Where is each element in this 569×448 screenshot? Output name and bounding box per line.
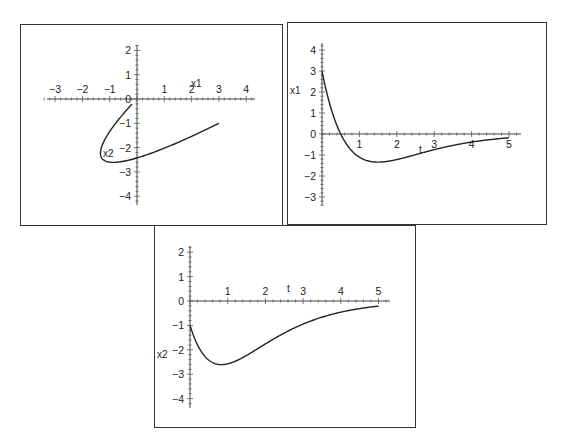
- svg-text:−1: −1: [172, 319, 184, 331]
- x1t-xlabel: t: [419, 144, 422, 155]
- x2t-xlabel: t: [287, 283, 290, 294]
- x1-curve: [322, 71, 509, 162]
- x2-curve: [190, 306, 379, 365]
- svg-text:2: 2: [310, 86, 316, 98]
- svg-text:−3: −3: [49, 83, 61, 95]
- svg-text:−3: −3: [304, 191, 316, 203]
- svg-text:−3: −3: [119, 166, 131, 178]
- svg-text:4: 4: [338, 285, 344, 297]
- svg-text:−3: −3: [172, 368, 184, 380]
- svg-text:1: 1: [356, 138, 362, 150]
- x2-time-plot: 12345210−1−2−3−4 t x2: [157, 246, 390, 408]
- plots-canvas: −3−2−11234210−1−2−3−4 x1 x2 1234543210−1…: [0, 0, 569, 448]
- svg-text:5: 5: [506, 138, 512, 150]
- svg-text:−2: −2: [119, 142, 131, 154]
- svg-text:0: 0: [178, 295, 184, 307]
- svg-text:3: 3: [216, 83, 222, 95]
- svg-text:1: 1: [125, 69, 131, 81]
- svg-text:1: 1: [161, 83, 167, 95]
- svg-text:−2: −2: [76, 83, 88, 95]
- svg-text:3: 3: [431, 138, 437, 150]
- svg-text:0: 0: [125, 93, 131, 105]
- svg-text:1: 1: [225, 285, 231, 297]
- x1t-ylabel: x1: [290, 85, 301, 96]
- svg-text:5: 5: [376, 285, 382, 297]
- svg-text:3: 3: [310, 65, 316, 77]
- x2t-ylabel: x2: [157, 349, 168, 360]
- svg-text:−1: −1: [304, 149, 316, 161]
- svg-text:4: 4: [469, 138, 475, 150]
- phase-plot: −3−2−11234210−1−2−3−4 x1 x2: [44, 44, 255, 205]
- svg-text:1: 1: [178, 271, 184, 283]
- svg-text:−4: −4: [172, 393, 184, 405]
- svg-text:−1: −1: [119, 117, 131, 129]
- svg-text:1: 1: [310, 107, 316, 119]
- svg-text:−2: −2: [304, 170, 316, 182]
- svg-text:−4: −4: [119, 190, 131, 202]
- svg-text:2: 2: [262, 285, 268, 297]
- svg-text:4: 4: [310, 44, 316, 56]
- phase-ylabel: x2: [103, 148, 114, 159]
- svg-text:2: 2: [394, 138, 400, 150]
- svg-text:−2: −2: [172, 344, 184, 356]
- svg-text:−1: −1: [104, 83, 116, 95]
- svg-text:4: 4: [243, 83, 249, 95]
- svg-text:0: 0: [310, 128, 316, 140]
- x1-time-plot: 1234543210−1−2−3 t x1: [290, 43, 521, 205]
- phase-ticks: −3−2−11234210−1−2−3−4: [44, 44, 251, 202]
- phase-trajectory-curve: [100, 104, 218, 162]
- x2t-ticks: 12345210−1−2−3−4: [172, 246, 386, 404]
- svg-text:2: 2: [178, 246, 184, 258]
- svg-text:2: 2: [125, 44, 131, 56]
- svg-text:3: 3: [300, 285, 306, 297]
- phase-xlabel: x1: [191, 78, 202, 89]
